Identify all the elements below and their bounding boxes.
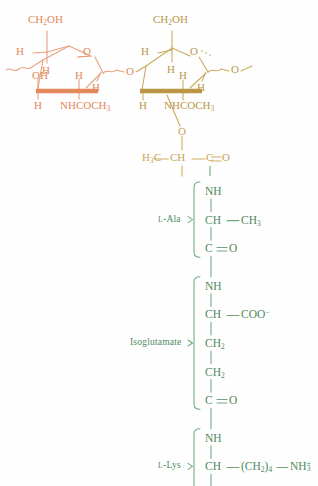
isoglutamate-carbonyl-o-label: O (229, 395, 237, 407)
residue-brace (194, 429, 200, 486)
residue-brace-pointer (188, 217, 193, 223)
isoglutamate-nh-label: NH (205, 281, 222, 293)
left-ring-oh-label: OH (32, 70, 48, 81)
right-ring-h-down-label: H (139, 100, 147, 111)
glycosidic-to-right-ring (136, 66, 146, 72)
l-ala-nh-label: NH (205, 186, 222, 198)
lactyl-ether-o-label: O (178, 126, 186, 137)
right-ring-h-c1-label: H (197, 82, 205, 93)
isoglutamate-ch-label: CH2 (205, 367, 225, 379)
l-lys-terminal-amine-label: NH+3 (290, 461, 312, 473)
residue-brace-pointer (188, 463, 193, 469)
residue-label-l-ala: L-Ala (158, 215, 181, 225)
left-open-bond-wavy (6, 67, 32, 71)
right-ring-nhcoch3-label: NHCOCH3 (164, 100, 214, 112)
glycosidic-o-label: O (126, 66, 134, 77)
l-lys-nh-label: NH (205, 433, 222, 445)
isoglutamate-sidechain-label: COO− (241, 309, 270, 321)
left-ring-h-c2-label: H (75, 70, 83, 81)
l-ala-carbonyl-o-label: O (229, 243, 237, 255)
l-ala-sidechain-label: CH3 (241, 215, 261, 227)
right-open-bond (208, 66, 252, 72)
l-ala-c-label: C (205, 243, 213, 255)
isoglutamate-c-label: C (205, 395, 213, 407)
left-ring-h-c5-label: H (16, 46, 24, 57)
residue-brace-pointer (188, 340, 193, 346)
residue-brace (194, 182, 200, 257)
l-lys-sidechain-label: (CH2)4 (241, 461, 272, 473)
right-ring-o-label: O (190, 46, 198, 57)
lactyl-carbonyl-c-label: C (206, 152, 213, 163)
right-ring-h-c5-label: H (141, 46, 149, 57)
right-ring-o-dots (201, 50, 211, 56)
right-ring-exit-o-label: O (231, 64, 239, 75)
l-lys-ch-label: CH (205, 461, 221, 473)
isoglutamate-ch-label: CH (205, 309, 221, 321)
lactyl-h3c-label: H3C (142, 152, 161, 164)
residue-brace (194, 277, 200, 409)
left-ring-ch2oh-label: CH2OH (28, 14, 63, 26)
lactyl-carbonyl-o-label: O (222, 152, 230, 163)
left-ring-h-c1-label: H (92, 82, 100, 93)
residue-braces (188, 182, 200, 486)
residue-label-l-lys: L-Lys (158, 461, 181, 471)
right-ring-ch2oh-label: CH2OH (153, 14, 188, 26)
peptidoglycan-diagram: CH2OH H H O OH H H H NHCOCH3 O CH2OH H H… (0, 0, 318, 486)
residue-label-isoglutamate: Isoglutamate (130, 338, 181, 348)
right-ring-h-c2-label: H (179, 70, 187, 81)
left-ring-nhcoch3-label: NHCOCH3 (60, 100, 110, 112)
l-ala-ch-label: CH (205, 215, 221, 227)
left-ring-h-down-label: H (34, 100, 42, 111)
glycosidic-linkage-bonds (103, 70, 124, 73)
right-ring-h-up-c4-label: H (167, 64, 175, 75)
lactyl-ch-label: CH (170, 152, 185, 163)
left-ring-o-label: O (83, 46, 91, 57)
isoglutamate-ch-label: CH2 (205, 338, 225, 350)
